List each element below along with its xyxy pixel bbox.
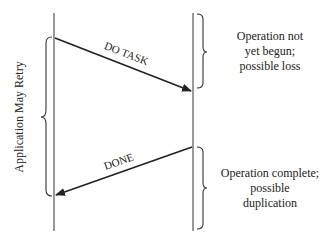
annotation-line: duplication <box>243 196 297 210</box>
annotation-line: possible <box>250 181 289 195</box>
annotation-line: possible loss <box>239 59 300 73</box>
retry-sequence-diagram: DO TASK DONE Application May Retry Opera… <box>0 0 332 238</box>
do-task-label: DO TASK <box>103 39 151 67</box>
retry-label: Application May Retry <box>12 61 26 172</box>
not-begun-annotation: Operation not yet begun; possible loss <box>237 29 304 73</box>
annotation-line: Operation complete; <box>221 166 319 180</box>
do-task-message: DO TASK <box>55 38 191 91</box>
done-message: DONE <box>56 147 192 195</box>
complete-brace <box>197 147 207 229</box>
retry-brace <box>41 37 52 196</box>
complete-annotation: Operation complete; possible duplication <box>221 166 319 210</box>
not-begun-brace <box>197 14 207 88</box>
annotation-line: yet begun; <box>245 44 295 58</box>
annotation-line: Operation not <box>237 29 304 43</box>
